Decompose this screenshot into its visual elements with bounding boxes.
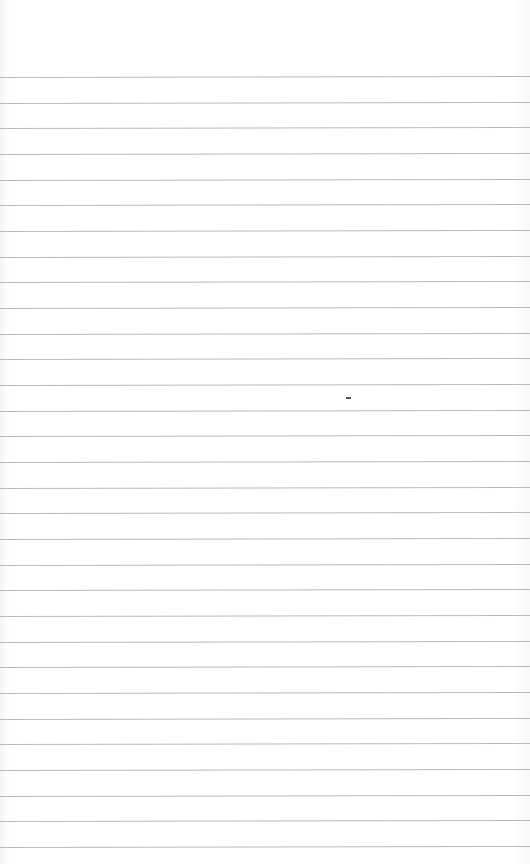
ruled-line <box>0 461 530 463</box>
ruled-line <box>0 846 530 848</box>
ruled-line <box>0 307 530 309</box>
ruled-line <box>0 718 530 720</box>
ruled-line <box>0 204 530 206</box>
ruled-line <box>0 179 530 181</box>
ruled-line <box>0 127 530 129</box>
ruled-line <box>0 512 530 514</box>
ruled-line <box>0 666 530 668</box>
ruled-line <box>0 281 530 283</box>
ruled-line <box>0 538 530 540</box>
ruled-line <box>0 358 530 360</box>
ruled-line <box>0 615 530 617</box>
pen-mark <box>346 397 351 399</box>
ruled-line <box>0 230 530 232</box>
ruled-line <box>0 256 530 258</box>
ruled-line <box>0 743 530 745</box>
ruled-line <box>0 589 530 591</box>
ruled-line <box>0 76 530 78</box>
ruled-line <box>0 102 530 104</box>
ruled-line <box>0 564 530 566</box>
ruled-line <box>0 410 530 412</box>
ruled-line <box>0 435 530 437</box>
ruled-line <box>0 820 530 822</box>
ruled-line <box>0 692 530 694</box>
ruled-line <box>0 487 530 489</box>
ruled-line <box>0 769 530 771</box>
ruled-line <box>0 795 530 797</box>
ruled-line <box>0 384 530 386</box>
lined-paper <box>0 0 530 864</box>
ruled-line <box>0 153 530 155</box>
ruled-line <box>0 641 530 643</box>
ruled-line <box>0 333 530 335</box>
